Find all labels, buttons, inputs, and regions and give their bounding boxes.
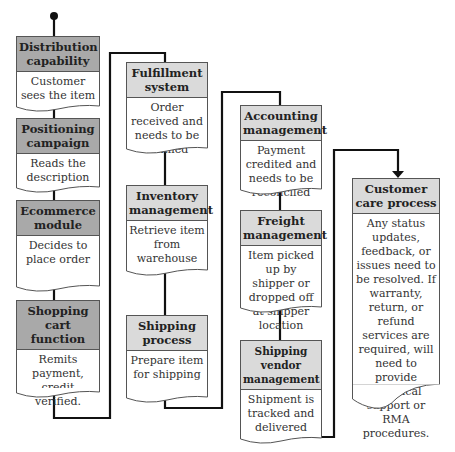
- document-wave: [16, 102, 100, 112]
- document-wave: [240, 303, 322, 313]
- node-body: Order received and needs to be fulfilled: [126, 98, 208, 144]
- document-wave: [240, 434, 322, 444]
- flow-node: Fulfillment system Order received and ne…: [126, 62, 208, 144]
- node-text: Reads the description: [27, 157, 90, 184]
- flow-node: Shipping process Prepare item for shippi…: [126, 315, 208, 393]
- node-header: Shipping process: [126, 315, 208, 351]
- node-text: Remits payment, credit verified.: [32, 353, 84, 408]
- node-text: Customer sees the item: [21, 75, 95, 102]
- document-wave: [352, 384, 440, 414]
- flow-node: Customer care process Any status updates…: [352, 178, 440, 384]
- node-body: Item picked up by shipper or dropped off…: [240, 246, 322, 303]
- node-text: Shipment is tracked and delivered: [248, 393, 315, 434]
- flow-node: Shopping cart function Remits payment, c…: [16, 300, 100, 388]
- node-body: Remits payment, credit verified.: [16, 350, 100, 388]
- document-wave: [16, 388, 100, 398]
- flow-node: Positioning campaign Reads the descripti…: [16, 118, 100, 183]
- flow-node: Distribution capability Customer sees th…: [16, 36, 100, 102]
- node-header: Customer care process: [352, 178, 440, 214]
- node-header: Shipping vendor management: [240, 340, 322, 390]
- node-header: Distribution capability: [16, 36, 100, 72]
- node-header: Accounting management: [240, 105, 322, 141]
- node-body: Reads the description: [16, 154, 100, 183]
- node-header: Shopping cart function: [16, 300, 100, 350]
- node-body: Customer sees the item: [16, 72, 100, 102]
- document-wave: [240, 185, 322, 195]
- node-body: Shipment is tracked and delivered: [240, 390, 322, 434]
- node-text: Retrieve item from warehouse: [129, 224, 205, 265]
- document-wave: [126, 393, 208, 403]
- flow-node: Inventory management Retrieve item from …: [126, 185, 208, 266]
- flow-node: Freight management Item picked up by shi…: [240, 210, 322, 303]
- flow-node: Shipping vendor management Shipment is t…: [240, 340, 322, 434]
- arrow-head-icon: [392, 171, 404, 178]
- node-body: Decides to place order: [16, 236, 100, 282]
- document-wave: [126, 144, 208, 154]
- node-body: Prepare item for shipping: [126, 351, 208, 393]
- node-header: Ecommerce module: [16, 200, 100, 236]
- document-wave: [126, 266, 208, 276]
- node-header: Freight management: [240, 210, 322, 246]
- node-text: Prepare item for shipping: [131, 354, 204, 381]
- node-body: Retrieve item from warehouse: [126, 221, 208, 266]
- node-header: Fulfillment system: [126, 62, 208, 98]
- document-wave: [16, 183, 100, 193]
- node-body: Payment credited and needs to be reconci…: [240, 141, 322, 185]
- node-body: Any status updates, feedback, or issues …: [352, 214, 440, 384]
- document-wave: [16, 282, 100, 292]
- node-header: Positioning campaign: [16, 118, 100, 154]
- flow-node: Ecommerce module Decides to place order: [16, 200, 100, 282]
- node-header: Inventory management: [126, 185, 208, 221]
- flow-node: Accounting management Payment credited a…: [240, 105, 322, 185]
- node-text: Decides to place order: [26, 239, 90, 266]
